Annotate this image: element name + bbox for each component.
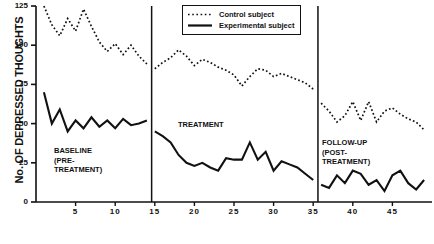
series-line-experimental xyxy=(155,131,313,180)
x-tick-label: 10 xyxy=(100,207,130,216)
y-tick-label: 100 xyxy=(0,40,28,49)
series-line-experimental xyxy=(44,92,147,131)
x-tick-label: 40 xyxy=(338,207,368,216)
x-tick-label: 5 xyxy=(61,207,91,216)
y-tick-label: 0 xyxy=(0,197,28,206)
y-tick-label: 25 xyxy=(0,158,28,167)
x-tick-label: 15 xyxy=(140,207,170,216)
legend-swatch-solid-icon xyxy=(187,21,213,30)
series-line-control xyxy=(321,102,424,130)
legend-label-control: Control subject xyxy=(219,10,274,19)
phase-label-line: TREATMENT) xyxy=(54,165,102,175)
x-tick-label: 25 xyxy=(219,207,249,216)
series-line-control xyxy=(44,6,147,64)
series-line-control xyxy=(155,50,313,89)
y-tick-label: 125 xyxy=(0,1,28,10)
phase-label-line: TREATMENT xyxy=(178,120,224,130)
phase-label-baseline: BASELINE(PRE-TREATMENT) xyxy=(54,146,102,175)
phase-label-line: TREATMENT) xyxy=(322,157,370,167)
chart-legend: Control subject Experimental subject xyxy=(182,5,301,35)
legend-item-control: Control subject xyxy=(187,9,294,20)
phase-divider-lines xyxy=(152,6,318,202)
y-tick-label: 50 xyxy=(0,119,28,128)
legend-label-experimental: Experimental subject xyxy=(219,21,294,30)
x-tick-label: 20 xyxy=(179,207,209,216)
phase-label-line: (POST- xyxy=(322,148,370,158)
series-line-experimental xyxy=(321,171,424,191)
x-tick-label: 30 xyxy=(259,207,289,216)
legend-swatch-dotted-icon xyxy=(187,10,213,19)
phase-label-treatment: TREATMENT xyxy=(178,120,224,130)
x-tick-label: 35 xyxy=(298,207,328,216)
phase-label-follow-up: FOLLOW-UP(POST-TREATMENT) xyxy=(322,138,370,167)
x-tick-label: 45 xyxy=(377,207,407,216)
phase-label-line: FOLLOW-UP xyxy=(322,138,370,148)
phase-label-line: (PRE- xyxy=(54,156,102,166)
y-tick-label: 75 xyxy=(0,79,28,88)
chart-container: No. OF DEPRESSED THOUGHTS 0255075100125 … xyxy=(0,0,434,244)
legend-item-experimental: Experimental subject xyxy=(187,20,294,31)
phase-label-line: BASELINE xyxy=(54,146,102,156)
